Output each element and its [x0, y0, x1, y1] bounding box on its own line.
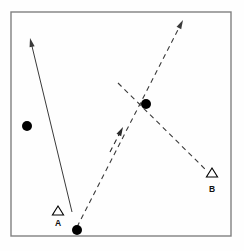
vector-field-diagram: AB — [0, 0, 244, 251]
diagram-canvas: AB — [0, 0, 244, 251]
circle-left — [22, 121, 32, 131]
circle-bottom — [72, 225, 82, 235]
label-a: A — [55, 218, 61, 228]
circle-center — [141, 99, 151, 109]
label-b: B — [209, 184, 215, 194]
figure-background — [0, 0, 244, 251]
